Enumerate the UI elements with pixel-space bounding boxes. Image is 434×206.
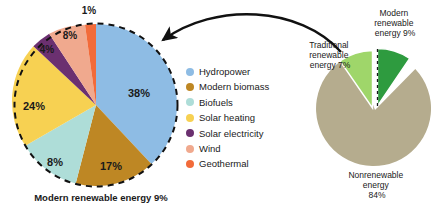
pct-label-solar-heating: 24% <box>23 100 45 112</box>
legend-label-hydropower: Hydropower <box>199 67 250 77</box>
legend-item-modern-biomass[interactable]: Modern biomass <box>186 79 298 94</box>
legend-swatch-hydropower <box>186 68 194 76</box>
pct-label-geothermal: 1% <box>82 5 97 16</box>
legend-swatch-wind <box>186 145 194 153</box>
pct-label-wind: 8% <box>63 30 78 41</box>
legend-label-modern-biomass: Modern biomass <box>199 82 269 92</box>
legend-item-geothermal[interactable]: Geothermal <box>186 156 298 171</box>
legend-swatch-solar-electricity <box>186 129 194 137</box>
legend-swatch-solar-heating <box>186 114 194 122</box>
legend-label-geothermal: Geothermal <box>199 159 249 169</box>
legend-item-hydropower[interactable]: Hydropower <box>186 64 298 79</box>
legend-label-biofuels: Biofuels <box>199 98 233 108</box>
renewable-energy-infographic: 38% 17% 8% 24% 4% 8% 1% Modern renewable… <box>0 0 434 206</box>
legend-label-wind: Wind <box>199 144 221 154</box>
legend-label-solar-heating: Solar heating <box>199 113 255 123</box>
legend-item-solar-heating[interactable]: Solar heating <box>186 110 298 125</box>
nonrenewable-callout: Nonrenewable energy 84% <box>348 170 405 200</box>
left-chart-caption: Modern renewable energy 9% <box>34 192 168 203</box>
traditional-renewable-callout: Traditional renewable energy 7% <box>309 40 351 70</box>
modern-renewable-callout: Modern renewable energy 9% <box>374 8 416 38</box>
pie-slice-nonrenewable[interactable] <box>316 54 431 166</box>
pct-label-biofuels: 8% <box>47 156 63 168</box>
legend-swatch-biofuels <box>186 98 194 106</box>
legend-item-wind[interactable]: Wind <box>186 141 298 156</box>
legend-item-solar-electricity[interactable]: Solar electricity <box>186 126 298 141</box>
legend-swatch-modern-biomass <box>186 83 194 91</box>
pct-label-solar-electricity: 4% <box>40 44 55 55</box>
pct-label-modern-biomass: 17% <box>100 160 122 172</box>
legend-label-solar-electricity: Solar electricity <box>199 129 263 139</box>
legend-item-biofuels[interactable]: Biofuels <box>186 95 298 110</box>
legend: Hydropower Modern biomass Biofuels Solar… <box>186 64 298 172</box>
pct-label-hydropower: 38% <box>128 87 150 99</box>
legend-swatch-geothermal <box>186 160 194 168</box>
